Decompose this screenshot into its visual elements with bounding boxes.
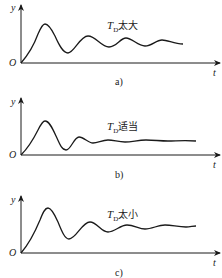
y-axis-label: y bbox=[11, 97, 15, 107]
td-label-a: TD太大 bbox=[107, 17, 138, 34]
t-axis-label: t bbox=[213, 160, 216, 170]
caption-a: a) bbox=[115, 76, 123, 87]
caption-b: b) bbox=[115, 169, 123, 180]
caption-c: c) bbox=[115, 267, 123, 278]
origin-label: O bbox=[9, 248, 16, 258]
td-condition: 太大 bbox=[118, 20, 138, 31]
origin-label: O bbox=[9, 150, 16, 160]
td-condition: 适当 bbox=[118, 121, 138, 132]
t-axis-label: t bbox=[213, 258, 216, 268]
td-label-c: TD太小 bbox=[107, 206, 138, 223]
panel-c bbox=[21, 196, 220, 253]
response-curve-a bbox=[21, 24, 183, 63]
y-axis-label: y bbox=[11, 195, 15, 205]
panel-a bbox=[21, 5, 220, 63]
t-axis-label: t bbox=[213, 68, 216, 78]
td-condition: 太小 bbox=[118, 209, 138, 220]
origin-label: O bbox=[9, 58, 16, 68]
td-label-b: TD适当 bbox=[107, 118, 138, 135]
y-axis-label: y bbox=[11, 3, 15, 13]
response-curves-figure bbox=[0, 0, 222, 278]
